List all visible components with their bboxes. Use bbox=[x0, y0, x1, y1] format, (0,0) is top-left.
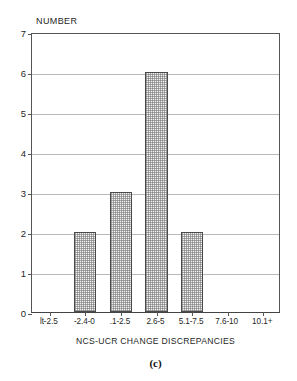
x-tick-mark bbox=[263, 312, 264, 316]
y-tick-mark bbox=[28, 274, 32, 275]
bar bbox=[110, 192, 132, 312]
y-tick-mark bbox=[28, 314, 32, 315]
bar bbox=[145, 72, 167, 312]
y-tick-label: 0 bbox=[21, 309, 26, 319]
x-tick-label: lt-2.5 bbox=[40, 318, 58, 326]
x-tick-label: 2.6-5 bbox=[146, 318, 164, 326]
figure-panel-c: NUMBER 01234567 NCS-UCR CHANGE DISCREPAN… bbox=[0, 0, 297, 381]
figure-caption: (c) bbox=[31, 357, 280, 369]
y-tick-mark bbox=[28, 74, 32, 75]
x-tick-label: 5.1-7.5 bbox=[179, 318, 204, 326]
y-tick-label: 4 bbox=[21, 149, 26, 159]
y-tick-mark bbox=[28, 194, 32, 195]
y-tick-label: 7 bbox=[21, 29, 26, 39]
bar bbox=[181, 232, 203, 312]
y-axis-title: NUMBER bbox=[36, 16, 77, 26]
x-tick-label: 10.1+ bbox=[252, 318, 272, 326]
y-tick-label: 1 bbox=[21, 269, 26, 279]
y-tick-mark bbox=[28, 154, 32, 155]
x-tick-label: .1-2.5 bbox=[110, 318, 130, 326]
x-tick-mark bbox=[121, 312, 122, 316]
x-axis-title: NCS-UCR CHANGE DISCREPANCIES bbox=[31, 336, 280, 346]
bar bbox=[74, 232, 96, 312]
x-tick-label: 7.6-10 bbox=[215, 318, 238, 326]
y-tick-label: 2 bbox=[21, 229, 26, 239]
plot-area: 01234567 bbox=[31, 33, 280, 313]
x-tick-mark bbox=[85, 312, 86, 316]
x-tick-mark bbox=[50, 312, 51, 316]
y-tick-label: 6 bbox=[21, 69, 26, 79]
y-tick-mark bbox=[28, 34, 32, 35]
y-tick-label: 3 bbox=[21, 189, 26, 199]
x-tick-mark bbox=[192, 312, 193, 316]
x-tick-mark bbox=[157, 312, 158, 316]
x-tick-mark bbox=[228, 312, 229, 316]
y-tick-label: 5 bbox=[21, 109, 26, 119]
x-tick-label: -2.4-0 bbox=[74, 318, 95, 326]
y-tick-mark bbox=[28, 114, 32, 115]
plot-inner: 01234567 bbox=[32, 34, 279, 312]
y-tick-mark bbox=[28, 234, 32, 235]
